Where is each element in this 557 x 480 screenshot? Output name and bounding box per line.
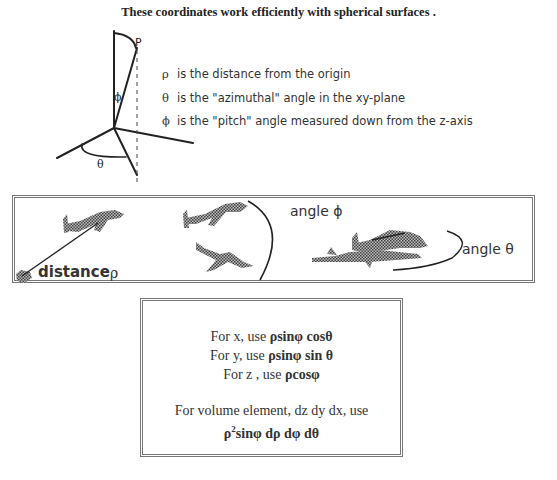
- phi-label: ϕ: [114, 91, 122, 104]
- distance-rho-symbol: ρ: [110, 265, 118, 281]
- theta-symbol: θ: [162, 87, 177, 111]
- phi-symbol: ϕ: [162, 110, 177, 134]
- point-p-label: P: [135, 36, 142, 49]
- rho-symbol: ρ: [162, 63, 177, 87]
- theta-label: θ: [97, 158, 104, 171]
- phi-arc: [248, 201, 273, 280]
- airplane-icon: [352, 230, 428, 252]
- x-axis-neg: [57, 128, 114, 158]
- definition-theta: θis the "azimuthal" angle in the xy-plan…: [162, 87, 473, 111]
- volume-element: ρ2sinφ dρ dφ dθ: [143, 420, 400, 443]
- definitions-list: ρis the distance from the origin θis the…: [162, 63, 473, 134]
- formula-y: For y, use ρsinφ sin θ: [143, 346, 400, 365]
- formula-z: For z , use ρcosφ: [143, 365, 400, 384]
- phi-arc: [114, 33, 136, 48]
- airplane-icon: [196, 242, 254, 272]
- volume-intro: For volume element, dz dy dx, use: [143, 401, 400, 420]
- angle-theta-label: angle θ: [462, 241, 514, 257]
- formula-x: For x, use ρsinφ cosθ: [143, 327, 400, 346]
- formula-box: For x, use ρsinφ cosθ For y, use ρsinφ s…: [140, 298, 403, 457]
- airplane-icon: [183, 202, 248, 228]
- rho-vector: [114, 48, 137, 128]
- airplane-icon: [63, 210, 124, 233]
- definition-phi: ϕis the "pitch" angle measured down from…: [162, 110, 473, 134]
- theta-arc: [82, 144, 126, 157]
- distance-label: distance: [38, 263, 110, 281]
- definition-rho: ρis the distance from the origin: [162, 63, 473, 87]
- x-axis-pos: [114, 128, 137, 175]
- origin-icon: [16, 270, 32, 283]
- angle-phi-label: angle ϕ: [290, 203, 343, 219]
